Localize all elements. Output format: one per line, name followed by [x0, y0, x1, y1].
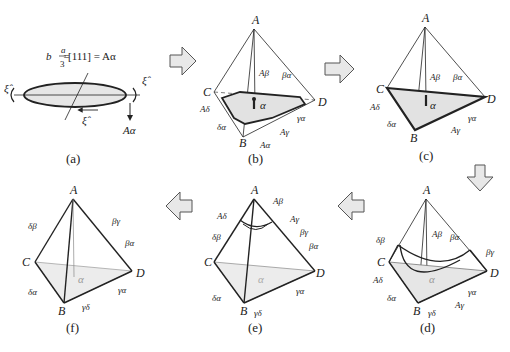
label-Adelta: Aδ — [216, 211, 227, 221]
vertex-b-c: B — [410, 131, 418, 145]
arrow-left-icon — [338, 192, 364, 220]
vertex-a-e: A — [250, 183, 259, 197]
vertex-d-f: D — [135, 266, 145, 280]
label-Adelta: Aδ — [369, 102, 380, 112]
vertex-c-b: C — [203, 85, 212, 99]
alpha-label-d: α — [429, 273, 435, 285]
alpha-label-e: α — [258, 273, 264, 285]
alpha-label-c: α — [430, 99, 436, 111]
vertex-c-f: C — [22, 255, 31, 269]
caption-e: (e) — [248, 320, 262, 335]
label-deltaalpha: δα — [387, 119, 396, 129]
vertex-d-e: D — [315, 266, 325, 280]
label-Adelta: Aδ — [372, 275, 383, 285]
label-Adelta: Aδ — [199, 104, 210, 114]
label-deltabeta: δβ — [212, 232, 221, 242]
vertex-b-f: B — [58, 304, 66, 318]
vertex-c-d: C — [377, 255, 386, 269]
label-deltaalpha: δα — [387, 293, 396, 303]
vertex-a-f: A — [69, 183, 78, 197]
vertex-d-d: D — [489, 266, 499, 280]
label-gammaalpha: γα — [297, 113, 306, 123]
vertex-d-b: D — [317, 95, 327, 109]
panel-d: A C D B α δβ Aβ βα βγ Aδ δα γδ Aγ γα (d) — [372, 183, 499, 335]
arrow-right-icon — [170, 47, 196, 75]
xi-bottom-label: ξ̂ — [82, 114, 92, 127]
panel-f: A C D B α δβ βγ βα δα γδ γα (f) — [22, 183, 145, 335]
label-deltabeta: δβ — [376, 235, 385, 245]
caption-a: (a) — [66, 151, 80, 166]
caption-b: (b) — [248, 151, 263, 166]
label-gammaalpha: γα — [296, 286, 305, 296]
label-Abeta: Aβ — [258, 68, 269, 78]
vertex-a-b: A — [251, 13, 260, 27]
equation-frac-num: a — [61, 45, 66, 55]
label-deltaalpha: δα — [212, 293, 221, 303]
panel-b: α A C D B Aβ βα Aδ δα Aα Aγ γα (b) — [199, 13, 327, 166]
xi-left-label: ξ̂ — [4, 82, 14, 95]
label-gammaalpha: γα — [468, 287, 477, 297]
label-betagamma: βγ — [111, 216, 120, 226]
caption-f: (f) — [66, 320, 79, 335]
label-gammadelta: γδ — [428, 308, 437, 318]
label-Agamma: Aγ — [279, 127, 289, 137]
xi-right-label: ξ̂ — [142, 74, 152, 87]
label-Abeta: Aβ — [272, 196, 283, 206]
vertex-a-d: A — [422, 183, 431, 197]
figure-canvas: b⃗ = a 3 [111] = Aα ξ̂ ξ̂ ξ̂ Aα (a) α A … — [0, 0, 510, 352]
label-gammadelta: γδ — [82, 302, 91, 312]
equation-frac-den: 3 — [60, 59, 65, 69]
label-Abeta: Aβ — [431, 229, 442, 239]
label-betagamma: βγ — [485, 247, 494, 257]
label-betaalpha: βα — [281, 70, 291, 80]
label-deltaalpha: δα — [28, 287, 37, 297]
caption-d: (d) — [420, 320, 435, 335]
vertex-a-c: A — [421, 11, 430, 25]
equation-lhs: b⃗ = — [46, 50, 70, 62]
vertex-b-b: B — [239, 136, 247, 150]
vertex-d-c: D — [486, 92, 496, 106]
label-Agamma: Aγ — [450, 125, 460, 135]
label-Agamma: Aγ — [454, 300, 464, 310]
arrow-down-icon — [467, 165, 493, 191]
label-betaalpha: βα — [449, 232, 459, 242]
label-deltaalpha: δα — [217, 122, 226, 132]
arrow-right-icon — [325, 55, 354, 83]
alpha-label-f: α — [78, 273, 84, 285]
label-Abeta: Aβ — [429, 72, 440, 82]
vertex-c-c: C — [376, 82, 385, 96]
label-Aalpha: Aα — [259, 140, 270, 150]
label-betaalpha: βα — [452, 72, 462, 82]
label-deltabeta: δβ — [28, 221, 37, 231]
alpha-label-b: α — [260, 99, 266, 111]
label-Agamma: Aγ — [289, 214, 299, 224]
label-betagamma: βγ — [299, 227, 308, 237]
vertex-c-e: C — [204, 255, 213, 269]
burgers-label: Aα — [122, 124, 136, 136]
label-gammadelta: γδ — [254, 308, 263, 318]
vertex-b-e: B — [240, 304, 248, 318]
panel-a: b⃗ = a 3 [111] = Aα ξ̂ ξ̂ ξ̂ Aα (a) — [4, 45, 152, 166]
label-gammaalpha: γα — [118, 285, 127, 295]
panel-c: α A C D B Aβ βα Aδ δα Aγ γα (c) — [369, 11, 496, 163]
caption-c: (c) — [419, 148, 433, 163]
label-gammaalpha: γα — [468, 113, 477, 123]
label-betaalpha: βα — [124, 238, 134, 248]
arrow-left-icon — [166, 192, 192, 220]
vertex-b-d: B — [413, 304, 421, 318]
label-betaalpha: βα — [308, 241, 318, 251]
panel-e: A C D B α Aβ Aδ Aγ δβ βγ βα δα γδ γα (e) — [204, 183, 325, 335]
equation-rhs: [111] = Aα — [68, 50, 116, 62]
